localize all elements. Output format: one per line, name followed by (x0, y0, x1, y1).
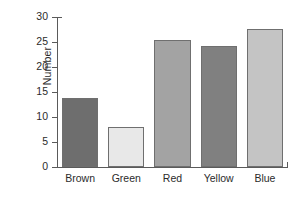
plot-area: 051015202530 (57, 17, 288, 168)
x-axis-tick-labels: BrownGreenRedYellowBlue (57, 172, 288, 188)
x-axis-label-green: Green (103, 172, 149, 184)
x-axis-label-blue: Blue (242, 172, 288, 184)
y-axis-tick-label: 0 (42, 160, 48, 172)
y-axis-tick-label: 20 (36, 60, 48, 72)
bar-blue (247, 29, 283, 168)
y-axis-tick-label: 15 (36, 85, 48, 97)
y-axis-tick-label: 5 (42, 135, 48, 147)
y-axis-tick-label: 25 (36, 35, 48, 47)
y-axis-tick-label: 30 (36, 10, 48, 22)
x-axis-label-brown: Brown (57, 172, 103, 184)
bar-yellow (201, 46, 237, 167)
bar-brown (62, 98, 98, 168)
bars-group (57, 17, 288, 168)
bar-chart-figure: Number 051015202530 BrownGreenRedYellowB… (0, 0, 302, 200)
y-axis-tick-label: 10 (36, 110, 48, 122)
bar-red (154, 40, 190, 167)
x-axis-label-yellow: Yellow (196, 172, 242, 184)
bar-green (108, 127, 144, 168)
x-axis-label-red: Red (149, 172, 195, 184)
